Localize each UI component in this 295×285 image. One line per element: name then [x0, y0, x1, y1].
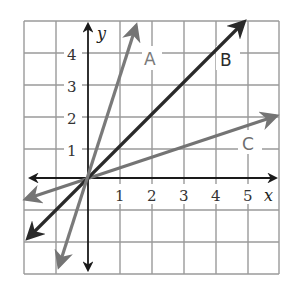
y-tick-2: 2: [67, 110, 77, 128]
line-b: [28, 22, 244, 238]
line-b-label: B: [220, 50, 232, 70]
x-tick-3: 3: [179, 187, 189, 205]
x-tick-5: 5: [243, 187, 253, 205]
line-c-label: C: [242, 134, 254, 154]
y-tick-3: 3: [67, 78, 77, 96]
y-tick-1: 1: [67, 142, 77, 160]
x-tick-2: 2: [147, 187, 157, 205]
x-tick-4: 4: [211, 187, 221, 205]
y-axis-label: y: [96, 24, 107, 43]
line-a-label: A: [144, 49, 156, 69]
y-tick-4: 4: [67, 46, 77, 64]
x-tick-1: 1: [115, 187, 125, 205]
x-axis-label: x: [264, 186, 273, 205]
coordinate-graph: 4 3 2 1 1 2 3 4 5 x y A B C: [0, 0, 295, 285]
